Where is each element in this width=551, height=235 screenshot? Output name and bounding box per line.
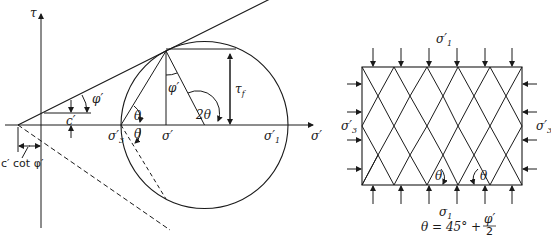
theta-label-upper: θ (134, 109, 142, 123)
right-stress-arrows (523, 84, 537, 169)
phi-angle-arc-envelope (82, 95, 87, 112)
sigma-axis-label: σ′ (311, 129, 322, 143)
bottom-stress-label: σ1 (439, 205, 452, 221)
phi-angle-arc-center (166, 73, 177, 75)
failure-planes (362, 67, 522, 185)
right-stress-label: σ′3 (536, 119, 551, 135)
bottom-stress-arrows (373, 186, 512, 204)
left-stress-label: σ′3 (341, 119, 357, 135)
failure-envelope (18, 0, 312, 125)
theta-arc-right (473, 169, 478, 184)
phi-label-center: φ′ (168, 81, 179, 95)
c-cot-phi-label: c′ cot φ′ (1, 157, 44, 170)
two-theta-label: 2θ (195, 108, 212, 122)
top-stress-label: σ′1 (436, 32, 452, 48)
formula-denominator: 2 (486, 225, 493, 235)
mohr-circle-diagram (5, 0, 313, 230)
formula-numerator: φ′ (484, 212, 495, 226)
sigma1-label: σ′1 (264, 129, 280, 145)
formula-lhs: θ = 45° + (421, 220, 481, 234)
theta-label-lower: θ (134, 127, 142, 141)
top-stress-arrows (373, 48, 512, 66)
diagram-canvas: τ σ′ φ′ c′ c′ cot φ′ φ′ 2θ θ θ σ′3 σ′ σ′… (0, 0, 551, 235)
theta-label-left: θ (435, 169, 443, 183)
tau-f-label: τf (235, 82, 247, 98)
failure-plane-chord-mirror (121, 125, 166, 199)
sigma-center-label: σ′ (162, 129, 173, 143)
phi-label-envelope: φ′ (92, 92, 103, 106)
theta-label-right: θ (480, 169, 488, 183)
tau-axis-label: τ (30, 6, 37, 20)
c-prime-label: c′ (66, 114, 76, 128)
soil-element (362, 67, 522, 185)
theta-formula: θ = 45° + φ′ 2 (421, 212, 496, 235)
